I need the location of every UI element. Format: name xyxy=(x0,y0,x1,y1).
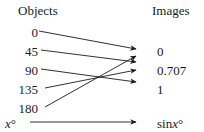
arrow-0-to-0 xyxy=(39,31,136,49)
arrow-180-to-0 xyxy=(45,56,136,107)
arrow-135-to-0707 xyxy=(45,70,136,88)
mapping-diagram: Objects Images 0 45 90 135 180 0 0.707 1… xyxy=(0,0,204,132)
arrow-45-to-0707 xyxy=(41,50,136,62)
arrow-layer xyxy=(0,0,204,132)
arrow-90-to-1 xyxy=(41,69,136,82)
